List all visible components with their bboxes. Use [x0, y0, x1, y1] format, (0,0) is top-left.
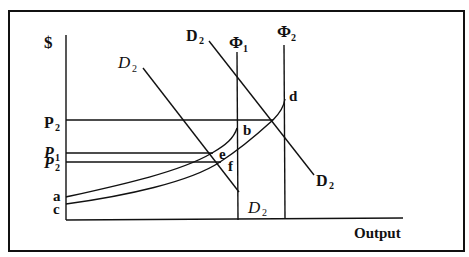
svg-text:1: 1 — [243, 43, 248, 54]
point-label-f: f — [228, 158, 234, 174]
svg-text:2: 2 — [55, 162, 60, 173]
demand-curve-left — [143, 68, 239, 192]
demand-left-bottom-label: D 2 — [247, 198, 267, 218]
svg-text:P: P — [44, 114, 54, 131]
phi1-label: Φ 1 — [229, 33, 248, 54]
point-label-d: d — [289, 88, 298, 104]
demand-left-top-label: D 2 — [117, 53, 137, 74]
point-label-e: e — [219, 146, 226, 162]
x-axis — [66, 218, 403, 220]
svg-text:2: 2 — [329, 180, 334, 191]
phi2-label: Φ 2 — [277, 22, 296, 43]
point-label-b: b — [243, 122, 251, 138]
svg-text:D: D — [117, 53, 131, 72]
svg-text:D: D — [247, 198, 261, 217]
svg-text:D: D — [316, 172, 328, 189]
demand-right-bottom-label: D 2 — [316, 172, 334, 191]
svg-text:P: P — [43, 154, 54, 171]
svg-text:2: 2 — [291, 32, 296, 43]
x-axis-label: Output — [354, 225, 401, 241]
svg-text:2: 2 — [262, 207, 267, 218]
curve-start-label-c: c — [53, 201, 60, 217]
svg-text:2: 2 — [199, 35, 204, 46]
phi2-capacity-line — [284, 45, 285, 219]
svg-text:Φ: Φ — [229, 33, 243, 52]
demand-right-top-label: D 2 — [186, 27, 204, 46]
svg-text:2: 2 — [55, 122, 60, 133]
price-label-p2-upper: P 2 — [44, 114, 60, 133]
economics-diagram: $ Output Φ 1 Φ 2 P 2 P 1 P 2 a c D 2 D 2 — [0, 0, 469, 257]
svg-text:Φ: Φ — [277, 22, 291, 41]
cost-curve-c — [66, 99, 285, 204]
y-axis-label: $ — [44, 33, 53, 52]
svg-text:D: D — [186, 27, 198, 44]
svg-text:2: 2 — [132, 63, 137, 74]
